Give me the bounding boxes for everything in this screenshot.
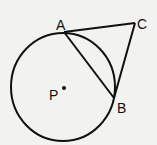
label-a: A: [56, 17, 66, 33]
geometry-diagram: A C P B: [0, 0, 157, 145]
tangent-segment-cb: [114, 23, 135, 98]
center-point-p: [62, 86, 66, 90]
tangent-segment-ac: [64, 23, 135, 32]
diagram-canvas: A C P B: [0, 0, 157, 145]
label-c: C: [137, 16, 147, 32]
label-p: P: [49, 87, 58, 103]
chord-ab: [64, 32, 114, 98]
label-b: B: [117, 100, 126, 116]
